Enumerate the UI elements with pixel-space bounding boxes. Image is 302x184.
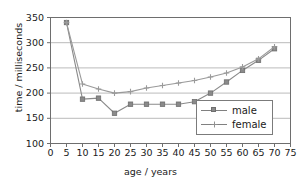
legend-item-female: female (201, 117, 266, 131)
data-point-male (112, 111, 116, 115)
legend-marker-square-icon (201, 104, 227, 116)
data-point-male (96, 96, 100, 100)
legend-label-male: male (227, 105, 257, 116)
data-point-male (176, 102, 180, 106)
line-chart: time / milliseconds 100150200250300350 0… (0, 0, 301, 184)
x-axis-tick-labels: 051015202530354045505560657075 (0, 147, 301, 161)
legend-item-male: male (201, 103, 266, 117)
x-axis-tick-label: 75 (280, 147, 302, 158)
data-point-male (208, 91, 212, 95)
legend-marker-cross-icon (201, 118, 227, 130)
legend: male female (196, 100, 273, 135)
data-point-male (224, 80, 228, 84)
data-point-male (80, 97, 84, 101)
data-point-male (128, 102, 132, 106)
data-point-male (144, 102, 148, 106)
data-point-male (160, 102, 164, 106)
x-axis-title: age / years (0, 166, 301, 177)
legend-label-female: female (227, 119, 266, 130)
